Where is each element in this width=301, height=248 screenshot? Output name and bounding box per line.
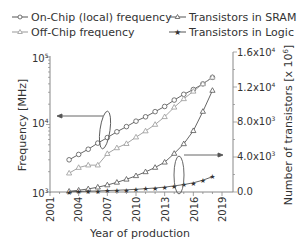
circle-marker-icon bbox=[153, 109, 158, 114]
left-axis-title: Frequency [MHz] bbox=[16, 79, 29, 171]
star-marker-icon: ★ bbox=[200, 177, 206, 185]
circle-marker-icon bbox=[76, 152, 81, 157]
x-tick-label: 2013 bbox=[160, 197, 171, 222]
circle-marker-icon bbox=[162, 104, 167, 109]
star-marker-icon: ★ bbox=[190, 180, 196, 188]
triangle-marker-icon bbox=[200, 109, 205, 114]
x-tick-label: 2001 bbox=[45, 197, 56, 222]
x-tick-label: 2019 bbox=[217, 197, 228, 222]
circle-marker-icon bbox=[124, 124, 129, 129]
legend-item-logic: ★ Transistors in Logic bbox=[169, 26, 294, 39]
triangle-marker-icon bbox=[143, 128, 148, 133]
legend: On-Chip (local) frequency Off-Chip frequ… bbox=[12, 11, 296, 39]
triangle-marker-icon bbox=[124, 141, 129, 146]
legend-label: Transistors in SRAM bbox=[188, 11, 296, 24]
legend-label: On-Chip (local) frequency bbox=[31, 11, 172, 24]
circle-marker-icon bbox=[115, 129, 120, 134]
triangle-marker-icon bbox=[181, 96, 186, 101]
right-axis-title: Number of transistors [x 106] bbox=[282, 45, 295, 206]
triangle-marker-icon bbox=[175, 15, 180, 19]
series-layer: ★★★★★★★★★★★★★★★★ bbox=[66, 75, 216, 197]
legend-label: Transistors in Logic bbox=[188, 26, 294, 39]
star-marker-icon: ★ bbox=[162, 184, 168, 192]
star-marker-icon: ★ bbox=[123, 187, 129, 195]
x-axis-title: Year of production bbox=[89, 227, 190, 240]
left-tick-label: 105 bbox=[32, 52, 49, 64]
right-tick-label: 0.0 bbox=[237, 186, 253, 197]
legend-label: Off-Chip frequency bbox=[31, 26, 135, 39]
axes bbox=[50, 52, 233, 193]
star-marker-icon: ★ bbox=[142, 185, 148, 193]
left-axis-labels: 105 104 103 bbox=[32, 52, 49, 199]
x-tick-label: 2007 bbox=[102, 197, 113, 222]
x-tick-label: 2004 bbox=[73, 197, 84, 222]
triangle-marker-icon bbox=[153, 122, 158, 127]
legend-item-sram: Transistors in SRAM bbox=[169, 11, 296, 24]
x-axis-labels: 2001 2004 2007 2010 2013 2016 2019 bbox=[45, 197, 228, 222]
star-marker-icon: ★ bbox=[85, 188, 91, 196]
circle-marker-icon bbox=[86, 147, 91, 152]
star-marker-icon: ★ bbox=[133, 186, 139, 194]
triangle-marker-icon bbox=[105, 151, 110, 156]
star-marker-icon: ★ bbox=[95, 188, 101, 196]
circle-marker-icon bbox=[143, 115, 148, 120]
circle-marker-icon bbox=[172, 98, 177, 103]
star-marker-icon: ★ bbox=[114, 187, 120, 195]
star-marker-icon: ★ bbox=[152, 185, 158, 193]
left-tick-label: 104 bbox=[32, 117, 49, 129]
triangle-marker-icon bbox=[210, 88, 215, 93]
arrow-right-icon bbox=[218, 153, 223, 157]
series-0 bbox=[67, 75, 215, 162]
right-group-ellipse bbox=[174, 156, 184, 194]
x-tick-label: 2016 bbox=[189, 197, 200, 222]
circle-marker-icon bbox=[67, 157, 72, 162]
circle-marker-icon bbox=[134, 119, 139, 124]
circle-marker-icon bbox=[18, 15, 22, 19]
legend-item-off-chip: Off-Chip frequency bbox=[12, 26, 135, 39]
triangle-marker-icon bbox=[67, 170, 72, 175]
x-tick-label: 2010 bbox=[131, 197, 142, 222]
right-tick-label: 4.0x103 bbox=[237, 150, 276, 162]
triangle-marker-icon bbox=[18, 30, 23, 34]
star-marker-icon: ★ bbox=[104, 187, 110, 195]
triangle-marker-icon bbox=[191, 128, 196, 133]
dual-axis-line-chart: On-Chip (local) frequency Off-Chip frequ… bbox=[0, 0, 301, 248]
arrow-left-icon bbox=[57, 114, 62, 118]
right-tick-label: 1.2x104 bbox=[237, 81, 276, 93]
chart-container: On-Chip (local) frequency Off-Chip frequ… bbox=[0, 0, 301, 248]
star-marker-icon: ★ bbox=[209, 173, 215, 181]
star-marker-icon: ★ bbox=[174, 28, 181, 37]
star-marker-icon: ★ bbox=[76, 188, 82, 196]
right-tick-label: 1.6x104 bbox=[237, 46, 276, 58]
series-1 bbox=[67, 75, 216, 175]
legend-item-on-chip: On-Chip (local) frequency bbox=[12, 11, 172, 24]
triangle-marker-icon bbox=[133, 134, 138, 139]
right-tick-label: 8.0x103 bbox=[237, 115, 276, 127]
right-axis-labels: 1.6x104 1.2x104 8.0x103 4.0x103 0.0 bbox=[237, 46, 276, 197]
series-2 bbox=[67, 88, 216, 193]
triangle-marker-icon bbox=[86, 162, 91, 167]
star-marker-icon: ★ bbox=[66, 189, 72, 197]
